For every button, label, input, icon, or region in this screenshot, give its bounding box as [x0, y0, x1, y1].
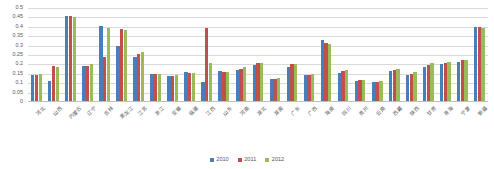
category-cell: 吉林 [96, 104, 113, 138]
category-cell: 安徽 [164, 104, 181, 138]
y-axis-tick-label: 0.5 [16, 5, 24, 10]
bar-group [386, 8, 403, 102]
bar-group [164, 8, 181, 102]
bar-2012 [464, 60, 467, 102]
y-axis-tick-label: 0.3 [16, 43, 24, 48]
y-axis-tick-label: 0.4 [16, 24, 24, 29]
y-axis-tick-label: 0 [20, 99, 23, 104]
bar-group [96, 8, 113, 102]
category-cell: 海南 [318, 104, 335, 138]
category-label: 新疆 [477, 105, 488, 116]
bar-2012 [260, 63, 263, 102]
category-axis: 河北山西内蒙古辽宁吉林黑龙江江苏浙江安徽福建江西山东河南湖北湖南广东广西海南四川… [28, 104, 488, 138]
legend-label-2011: 2011 [244, 157, 256, 163]
bar-group [232, 8, 249, 102]
bar-2012 [175, 75, 178, 102]
bar-2012 [141, 52, 144, 102]
bar-2012 [243, 67, 246, 102]
category-cell: 青海 [437, 104, 454, 138]
bar-2012 [396, 69, 399, 102]
bar-2012 [294, 64, 297, 102]
bar-group [113, 8, 130, 102]
bar-group [45, 8, 62, 102]
bar-group [437, 8, 454, 102]
bar-group [318, 8, 335, 102]
category-cell: 湖北 [249, 104, 266, 138]
bar-groups [28, 8, 488, 102]
bar-group [28, 8, 45, 102]
y-axis-tick-label: 0.45 [13, 15, 24, 20]
legend-label-2010: 2010 [216, 157, 228, 163]
bar-2012 [481, 28, 484, 102]
bar-2012 [277, 78, 280, 102]
category-cell: 湖南 [266, 104, 283, 138]
bar-2012 [209, 63, 212, 102]
bar-chart: 00.050.10.150.20.250.30.350.40.450.5 河北山… [0, 0, 494, 169]
bar-group [471, 8, 488, 102]
legend-item-2010[interactable]: 2010 [210, 157, 229, 163]
category-cell: 黑龙江 [113, 104, 130, 138]
bar-2012 [413, 72, 416, 102]
y-axis: 00.050.10.150.20.250.30.350.40.450.5 [0, 8, 26, 102]
bar-2012 [311, 74, 314, 102]
category-cell: 贵州 [352, 104, 369, 138]
bar-group [215, 8, 232, 102]
category-cell: 云南 [369, 104, 386, 138]
bar-group [283, 8, 300, 102]
category-cell: 山西 [45, 104, 62, 138]
legend-item-2011[interactable]: 2011 [238, 157, 257, 163]
bar-2012 [107, 28, 110, 102]
bar-group [79, 8, 96, 102]
category-cell: 广东 [283, 104, 300, 138]
bar-group [62, 8, 79, 102]
category-cell: 广西 [301, 104, 318, 138]
bar-2012 [73, 17, 76, 102]
bar-2012 [192, 73, 195, 102]
bar-2012 [447, 62, 450, 102]
legend-label-2012: 2012 [272, 157, 284, 163]
bar-group [352, 8, 369, 102]
bar-2012 [39, 74, 42, 102]
bar-2012 [362, 80, 365, 102]
bar-group [147, 8, 164, 102]
category-cell: 甘肃 [420, 104, 437, 138]
bar-2012 [379, 81, 382, 102]
bar-group [198, 8, 215, 102]
bar-group [181, 8, 198, 102]
category-cell: 四川 [335, 104, 352, 138]
category-cell: 江苏 [130, 104, 147, 138]
bar-2012 [90, 64, 93, 102]
category-cell: 江西 [198, 104, 215, 138]
bar-group [249, 8, 266, 102]
legend-swatch-icon-2010 [210, 158, 214, 162]
category-cell: 山东 [215, 104, 232, 138]
bar-2012 [328, 44, 331, 102]
legend-item-2012[interactable]: 2012 [265, 157, 284, 163]
category-cell: 宁夏 [454, 104, 471, 138]
category-cell: 浙江 [147, 104, 164, 138]
category-cell: 河北 [28, 104, 45, 138]
bar-group [403, 8, 420, 102]
y-axis-tick-label: 0.15 [13, 71, 24, 76]
bar-group [454, 8, 471, 102]
bar-group [266, 8, 283, 102]
bar-group [301, 8, 318, 102]
bar-2012 [124, 30, 127, 102]
bar-2012 [226, 72, 229, 102]
bar-2012 [56, 67, 59, 102]
y-axis-tick-label: 0.1 [16, 80, 24, 85]
bar-2012 [158, 74, 161, 102]
category-cell: 新疆 [471, 104, 488, 138]
plot-area [28, 8, 488, 102]
bar-group [335, 8, 352, 102]
bar-group [130, 8, 147, 102]
category-cell: 陕西 [403, 104, 420, 138]
category-cell: 内蒙古 [62, 104, 79, 138]
x-axis-line [28, 101, 488, 102]
y-axis-tick-label: 0.35 [13, 33, 24, 38]
bar-group [369, 8, 386, 102]
chart-legend: 2010 2011 2012 [0, 157, 494, 163]
y-axis-tick-label: 0.25 [13, 52, 24, 57]
bar-2012 [430, 63, 433, 102]
category-cell: 西藏 [386, 104, 403, 138]
